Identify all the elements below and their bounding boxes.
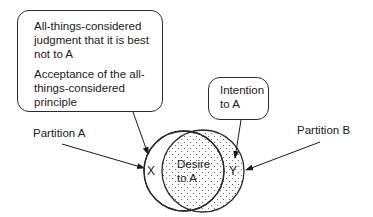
arrow-partition-b bbox=[246, 142, 320, 170]
partition-a-label: Partition A bbox=[33, 127, 85, 139]
desire-label: Desire to A bbox=[177, 157, 213, 185]
intention-text: Intention to A bbox=[220, 83, 268, 111]
judgment-box: All-things-considered judgment that it i… bbox=[17, 10, 163, 112]
judgment-text: All-things-considered judgment that it i… bbox=[34, 19, 154, 61]
intention-box: Intention to A bbox=[208, 77, 269, 120]
partition-b-label: Partition B bbox=[297, 124, 350, 136]
arrow-judgment-to-x bbox=[133, 112, 148, 154]
region-x-label: X bbox=[147, 164, 155, 178]
acceptance-text: Acceptance of the all-things-considered … bbox=[34, 67, 154, 109]
arrow-partition-a bbox=[62, 144, 144, 168]
region-y-label: Y bbox=[229, 164, 237, 178]
